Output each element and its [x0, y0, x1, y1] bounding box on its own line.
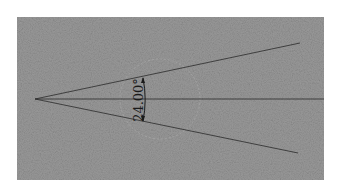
angle-label: 24.00°	[131, 78, 146, 122]
diagram-canvas: 24.00°	[17, 17, 324, 180]
noisy-background	[17, 17, 324, 180]
angle-diagram: 24.00°	[17, 17, 324, 180]
